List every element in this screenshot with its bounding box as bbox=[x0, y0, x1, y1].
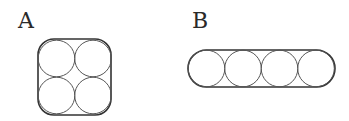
figure-b-circle bbox=[298, 50, 335, 87]
figure-a-circle bbox=[38, 40, 75, 77]
figure-a bbox=[38, 39, 111, 115]
figure-b bbox=[188, 50, 335, 87]
figure-b-circle bbox=[188, 50, 225, 87]
diagram-canvas bbox=[0, 0, 349, 121]
figure-a-circle bbox=[38, 77, 75, 114]
figure-a-circle bbox=[75, 40, 112, 77]
figure-a-circle bbox=[75, 77, 112, 114]
figure-b-circle bbox=[261, 50, 298, 87]
figure-b-circle bbox=[225, 50, 262, 87]
figure-a-container bbox=[38, 39, 111, 115]
